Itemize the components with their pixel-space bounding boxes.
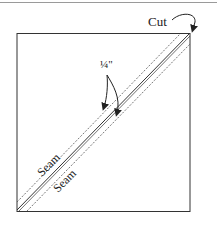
quarter-inch-arrow-left-icon xyxy=(104,75,107,107)
seam-label-lower: Seam xyxy=(50,166,79,195)
seam-label-upper: Seam xyxy=(34,150,63,179)
quarter-inch-label: ¼" xyxy=(100,58,113,70)
cut-arrow-icon xyxy=(172,14,195,29)
cut-label: Cut xyxy=(148,14,167,29)
quilt-diagram: Cut ¼" Seam Seam xyxy=(0,0,217,227)
quarter-inch-arrow-right-icon xyxy=(107,75,118,113)
